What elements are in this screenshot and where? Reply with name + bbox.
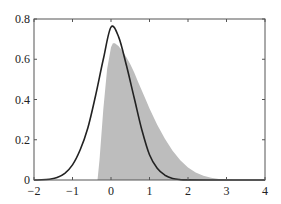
x-tick-label: 3 [224, 184, 230, 198]
x-tick-label: −1 [66, 184, 79, 198]
y-tick-label: 0 [24, 173, 30, 187]
y-tick-label: 0.6 [15, 52, 30, 66]
y-tick-label: 0.4 [15, 93, 30, 107]
x-tick-label: 0 [108, 184, 114, 198]
x-tick-label: 1 [147, 184, 153, 198]
y-tick-label: 0.2 [15, 133, 30, 147]
x-tick-label: 2 [185, 184, 191, 198]
chart: −2−10123400.20.40.60.8 [0, 0, 281, 204]
y-tick-label: 0.8 [15, 12, 30, 26]
series-layer [34, 26, 265, 180]
series-skewed-density-filled [98, 43, 235, 180]
x-tick-label: 4 [262, 184, 268, 198]
